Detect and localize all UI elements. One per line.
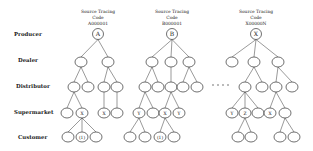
tree-node-label: (1) (79, 135, 86, 140)
tree-node (288, 132, 300, 142)
tree-edge (171, 40, 172, 58)
tree-node (139, 132, 151, 142)
tree-node (252, 108, 264, 118)
tree-edge (172, 40, 189, 58)
tree-edge (256, 40, 278, 58)
tree-node (111, 82, 123, 92)
tree-edge (254, 67, 262, 82)
tree-node (183, 57, 195, 67)
tree-x-title-line-2: Code (250, 15, 262, 20)
tree-node (232, 132, 244, 142)
tree-edge (171, 92, 179, 108)
tree-node (82, 82, 94, 92)
tree-edge (245, 92, 258, 108)
row-label-supermarket: Supermarket (14, 109, 54, 116)
row-label-distributor: Distributor (16, 83, 50, 89)
tree-b-code: B000001 (162, 21, 182, 26)
tree-node (177, 82, 189, 92)
tree-node (68, 82, 80, 92)
tree-node (139, 82, 151, 92)
tree-node (191, 82, 203, 92)
tree-node (111, 108, 123, 118)
producer-node-label: X (254, 30, 259, 37)
tree-edge (104, 67, 108, 82)
tree-edge (232, 40, 256, 58)
tree-edge (160, 118, 165, 132)
tree-edge (183, 67, 189, 82)
tree-x-nodes: XYZX (226, 29, 300, 143)
tree-node-label: Y (137, 111, 141, 116)
tree-node-label: (1) (157, 135, 164, 140)
tree-b-title-line-2: Code (166, 15, 178, 20)
tree-a-code: A000001 (87, 21, 108, 26)
ellipsis-dot (217, 84, 218, 85)
tree-edge (145, 67, 152, 82)
tree-node (165, 82, 177, 92)
tree-node-label: Y (230, 111, 234, 116)
tree-node (270, 82, 282, 92)
tree-edge (165, 118, 174, 132)
tree-edge (285, 118, 294, 132)
tree-node (62, 132, 74, 142)
tree-edge (189, 67, 197, 82)
tree-b-nodes: BYXY(1) (124, 29, 203, 143)
tree-node (279, 108, 291, 118)
tree-a-title-line-2: Code (92, 15, 104, 20)
tree-node (61, 108, 73, 118)
tree-edge (81, 67, 88, 82)
row-label-customer: Customer (18, 134, 47, 140)
tree-node (245, 132, 257, 142)
tree-node (90, 132, 102, 142)
tree-node (102, 57, 114, 67)
tree-edge (98, 40, 108, 58)
tree-node (165, 57, 177, 67)
tree-node (75, 57, 87, 67)
tree-edge (245, 118, 251, 132)
tree-edge (276, 67, 278, 82)
tree-edge (139, 92, 145, 108)
tree-node-label: Z (243, 111, 246, 116)
tree-edge (152, 67, 158, 82)
tree-node (256, 82, 268, 92)
tree-node-label: Y (177, 111, 181, 116)
row-labels: Producer Dealer Distributor Supermarket … (14, 31, 54, 140)
tree-node (286, 82, 298, 92)
producer-node-label: B (170, 30, 175, 37)
tree-edge (145, 92, 153, 108)
tree-edge (130, 118, 139, 132)
tree-edge (74, 92, 82, 108)
tree-node (152, 82, 164, 92)
tree-node (248, 57, 260, 67)
tree-edge (276, 92, 285, 108)
tree-edge (74, 67, 81, 82)
ellipsis-dot (222, 84, 223, 85)
tree-edge (270, 92, 276, 108)
tree-node (147, 108, 159, 118)
ellipsis-dot (212, 84, 213, 85)
source-tracing-diagram: Producer Dealer Distributor Supermarket … (0, 0, 313, 151)
tree-node (272, 57, 284, 67)
tree-node (146, 57, 158, 67)
tree-x: Source Tracing Code X00000N XYZX (226, 9, 300, 142)
tree-edge (232, 92, 245, 108)
tree-node (124, 132, 136, 142)
tree-a: Source Tracing Code A000001 AXX(1) (61, 9, 123, 142)
tree-edge (280, 118, 285, 132)
tree-edge (165, 92, 171, 108)
tree-edge (245, 67, 254, 82)
tree-edge (139, 118, 145, 132)
tree-edge (238, 118, 245, 132)
tree-edge (278, 67, 292, 82)
producer-node-label: A (95, 30, 101, 37)
row-label-producer: Producer (14, 31, 42, 37)
ellipsis-dots (212, 84, 228, 85)
tree-edge (81, 40, 98, 58)
tree-b-title-line-1: Source Tracing (155, 9, 189, 14)
tree-edge (67, 92, 74, 108)
tree-edge (82, 118, 96, 132)
tree-node (239, 82, 251, 92)
tree-edge (108, 67, 117, 82)
tree-edge (68, 118, 82, 132)
tree-x-code: X00000N (246, 21, 267, 26)
tree-a-title-line-1: Source Tracing (81, 9, 115, 14)
